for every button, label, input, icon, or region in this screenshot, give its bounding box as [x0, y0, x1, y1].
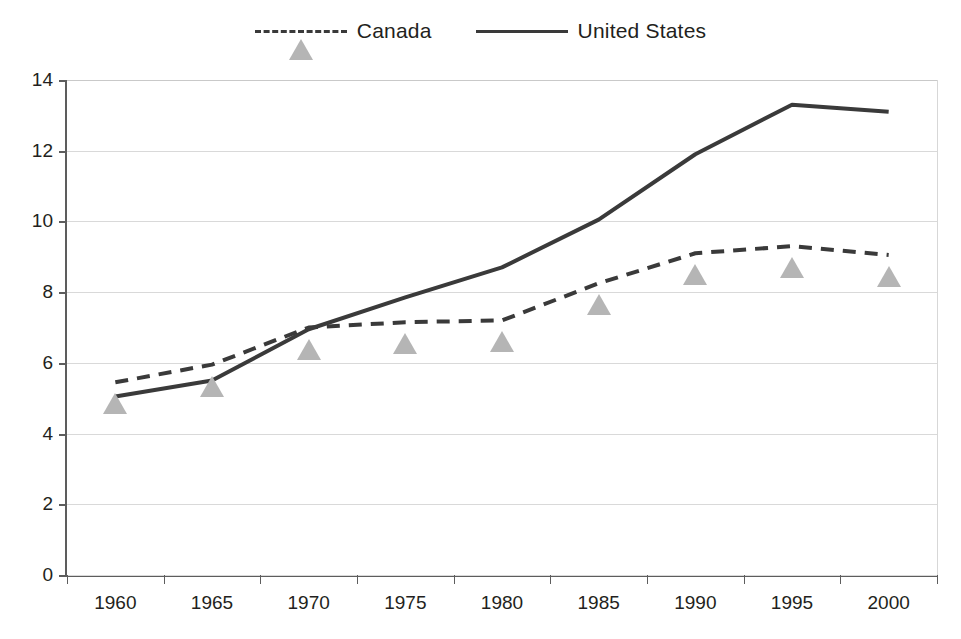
x-axis-tick-label: 1965 — [164, 592, 261, 614]
y-axis-tick-mark — [59, 151, 67, 153]
triangle-icon — [297, 322, 321, 360]
x-axis-tick-label: 1975 — [357, 592, 454, 614]
x-axis-tick-mark — [67, 575, 68, 584]
x-axis-tick-mark — [744, 575, 745, 584]
x-axis-tick-label: 1970 — [260, 592, 357, 614]
gridline — [67, 575, 937, 576]
y-axis-tick-mark — [59, 434, 67, 436]
x-axis-tick-label: 2000 — [840, 592, 937, 614]
x-axis-tick-mark — [550, 575, 551, 584]
x-axis-tick-mark — [840, 575, 841, 584]
data-point-canada-1985[interactable] — [587, 277, 611, 295]
chart-legend: Canada United States — [0, 8, 961, 54]
y-axis-tick-label: 6 — [42, 352, 53, 374]
y-axis-tick-label: 10 — [32, 210, 53, 232]
y-axis-tick-mark — [59, 80, 67, 82]
data-point-canada-1995[interactable] — [780, 240, 804, 258]
triangle-icon — [103, 376, 127, 414]
legend-item-canada[interactable]: Canada — [255, 19, 432, 43]
legend-label-united-states: United States — [578, 19, 707, 43]
y-axis-tick-mark — [59, 221, 67, 223]
data-point-canada-1975[interactable] — [393, 316, 417, 334]
triangle-icon — [490, 314, 514, 352]
data-point-canada-1970[interactable] — [297, 322, 321, 340]
x-axis-tick-mark — [647, 575, 648, 584]
data-point-canada-1960[interactable] — [103, 376, 127, 394]
data-point-canada-1990[interactable] — [683, 247, 707, 265]
y-axis-tick-label: 2 — [42, 493, 53, 515]
y-axis-tick-label: 8 — [42, 281, 53, 303]
legend-swatch-canada — [255, 19, 347, 43]
triangle-icon — [587, 277, 611, 315]
x-axis-tick-label: 1985 — [550, 592, 647, 614]
data-point-canada-2000[interactable] — [877, 249, 901, 267]
legend-label-canada: Canada — [357, 19, 432, 43]
triangle-icon — [289, 22, 313, 40]
legend-swatch-united-states — [476, 19, 568, 43]
x-axis-tick-label: 1990 — [647, 592, 744, 614]
triangle-icon — [393, 316, 417, 354]
x-axis-tick-label: 1980 — [454, 592, 551, 614]
triangle-icon — [200, 359, 224, 397]
data-point-canada-1980[interactable] — [490, 314, 514, 332]
y-axis-tick-mark — [59, 504, 67, 506]
plot-area: 14121086420 1960196519701975198019851990… — [65, 80, 938, 577]
y-axis-tick-mark — [59, 363, 67, 365]
x-axis-tick-mark — [164, 575, 165, 584]
y-axis-tick-label: 14 — [32, 69, 53, 91]
x-axis-tick-mark — [454, 575, 455, 584]
triangle-icon — [877, 249, 901, 287]
x-axis-tick-mark — [357, 575, 358, 584]
x-axis-tick-label: 1995 — [744, 592, 841, 614]
y-axis-tick-label: 12 — [32, 140, 53, 162]
triangle-icon — [683, 247, 707, 285]
line-chart: Canada United States 14121086420 1960196… — [0, 0, 961, 639]
x-axis-tick-mark — [260, 575, 261, 584]
triangle-icon — [780, 240, 804, 278]
x-axis-tick-label: 1960 — [67, 592, 164, 614]
legend-item-united-states[interactable]: United States — [476, 19, 707, 43]
series-line-united-states — [115, 105, 888, 397]
y-axis-tick-mark — [59, 575, 67, 577]
y-axis-tick-mark — [59, 292, 67, 294]
x-axis-tick-mark — [937, 575, 938, 584]
y-axis-tick-label: 0 — [42, 564, 53, 586]
y-axis-tick-label: 4 — [42, 423, 53, 445]
data-point-canada-1965[interactable] — [200, 359, 224, 377]
